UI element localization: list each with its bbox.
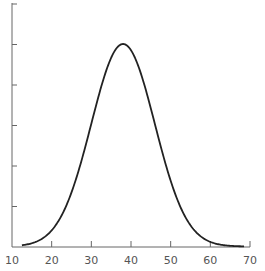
x-tick-label: 50 (164, 254, 178, 267)
bell-curve-chart: 10203040506070 (0, 0, 265, 271)
x-tick-label: 20 (45, 254, 59, 267)
normal-curve-line (22, 44, 244, 246)
x-tick-label: 30 (84, 254, 98, 267)
x-tick-labels: 10203040506070 (5, 254, 257, 267)
x-tick-label: 60 (203, 254, 217, 267)
axes (12, 3, 250, 247)
x-tick-label: 10 (5, 254, 19, 267)
x-tick-label: 40 (124, 254, 138, 267)
distribution-curve (22, 44, 244, 246)
x-tick-label: 70 (243, 254, 257, 267)
